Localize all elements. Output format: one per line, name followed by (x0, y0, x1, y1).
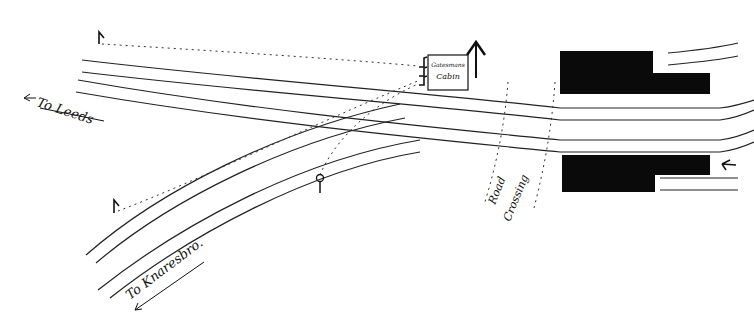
branch-line-tracks (86, 104, 420, 298)
signal-wires (102, 44, 420, 211)
svg-text:To Knaresbro.: To Knaresbro. (123, 235, 206, 303)
station-building-north (560, 51, 710, 94)
cabin-label-line2: Cabin (436, 72, 460, 81)
gatesmans-cabin: Gatesmans Cabin (428, 55, 468, 90)
cabin-label-line1: Gatesmans (431, 61, 465, 68)
railway-junction-diagram: Gatesmans Cabin To Leeds To Knaresbro. R… (0, 0, 754, 327)
signal-right-arrow (722, 160, 736, 170)
cabin-levers (419, 57, 427, 85)
to-leeds-label: To Leeds (24, 94, 104, 127)
station-building-south (562, 155, 710, 192)
svg-text:To Leeds: To Leeds (35, 95, 96, 127)
signal-top-left (99, 32, 104, 44)
svg-text:Road: Road (485, 175, 508, 207)
road-crossing-label: Road Crossing (485, 173, 531, 224)
to-knaresbro-label: To Knaresbro. (123, 235, 206, 310)
signal-tall-cabin (467, 42, 485, 78)
signal-disc-center (317, 175, 324, 194)
